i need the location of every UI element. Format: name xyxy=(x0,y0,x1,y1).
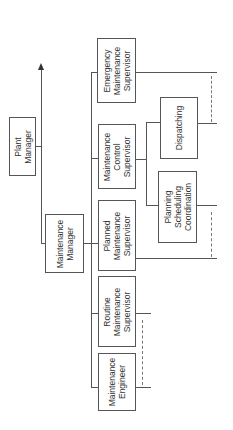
connector xyxy=(136,159,146,160)
node-dispatching: Dispatching xyxy=(160,97,198,159)
node-control-supervisor: Maintenance Control Supervisor xyxy=(98,124,136,189)
node-maintenance-manager: Maintenance Manager xyxy=(45,214,84,273)
dashed-link xyxy=(142,320,143,385)
connector xyxy=(84,243,91,244)
node-label: Maintenance Manager xyxy=(55,219,75,268)
connector xyxy=(136,387,151,388)
connector xyxy=(136,258,217,259)
node-planning: Planning Scheduling Coordination xyxy=(158,171,197,243)
trunk-line xyxy=(91,72,92,388)
connector xyxy=(146,205,158,206)
connector xyxy=(136,72,217,73)
connector xyxy=(146,122,160,123)
node-label: Emergency Maintenance Supervisor xyxy=(102,46,132,95)
dashed-link xyxy=(211,212,212,257)
arrow-up-icon xyxy=(38,63,44,70)
node-label: Maintenance Control Supervisor xyxy=(102,132,132,181)
connector xyxy=(91,313,98,314)
node-label: Dispatching xyxy=(174,106,184,150)
node-engineer: Maintenance Engineer xyxy=(98,353,136,411)
connector xyxy=(197,123,217,124)
connector xyxy=(136,313,151,314)
dashed-link xyxy=(211,76,212,122)
branch-line xyxy=(146,122,147,206)
connector xyxy=(91,387,98,388)
node-emergency-supervisor: Emergency Maintenance Supervisor xyxy=(97,38,136,103)
node-label: Maintenance Engineer xyxy=(107,358,127,407)
node-label: Plant Manager xyxy=(13,130,33,164)
node-plant-manager: Plant Manager xyxy=(9,117,36,176)
arrow-line xyxy=(41,68,42,244)
node-label: Routine Maintenance Supervisor xyxy=(102,287,132,336)
connector xyxy=(91,158,98,159)
connector xyxy=(91,243,98,244)
connector xyxy=(197,205,217,206)
node-label: Planning Scheduling Coordination xyxy=(163,183,193,231)
node-routine-supervisor: Routine Maintenance Supervisor xyxy=(98,276,136,347)
node-planned-supervisor: Planned Maintenance Supervisor xyxy=(98,200,136,271)
node-label: Planned Maintenance Supervisor xyxy=(102,211,132,260)
